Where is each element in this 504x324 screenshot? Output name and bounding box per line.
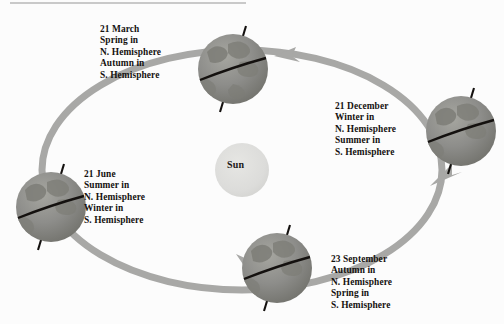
label-december-line-2: N. Hemisphere — [335, 124, 396, 135]
label-march-line-1: Spring in — [100, 35, 161, 46]
label-march-line-2: N. Hemisphere — [100, 47, 161, 58]
label-september-line-2: N. Hemisphere — [331, 277, 392, 288]
label-september-line-0: 23 September — [331, 254, 392, 265]
label-june-line-0: 21 June — [84, 169, 145, 180]
earth-march — [197, 26, 268, 112]
label-december-line-1: Winter in — [335, 112, 396, 123]
label-december-line-4: S. Hemisphere — [335, 147, 396, 158]
label-december: 21 December Winter in N. Hemisphere Summ… — [335, 101, 396, 158]
label-june: 21 June Summer in N. Hemisphere Winter i… — [84, 169, 145, 226]
label-september-line-3: Spring in — [331, 288, 392, 299]
label-december-line-3: Summer in — [335, 135, 396, 146]
label-june-line-4: S. Hemisphere — [84, 215, 145, 226]
label-march-line-3: Autumn in — [100, 58, 161, 69]
label-june-line-2: N. Hemisphere — [84, 192, 145, 203]
diagram-canvas: 21 March Spring in N. Hemisphere Autumn … — [0, 0, 504, 324]
sun-label: Sun — [227, 159, 244, 170]
label-september-line-4: S. Hemisphere — [331, 300, 392, 311]
label-june-line-1: Summer in — [84, 180, 145, 191]
label-september-line-1: Autumn in — [331, 265, 392, 276]
label-september: 23 September Autumn in N. Hemisphere Spr… — [331, 254, 392, 311]
earth-december — [425, 88, 496, 174]
sun-sphere — [215, 143, 269, 197]
earth-september — [241, 225, 312, 311]
label-march-line-4: S. Hemisphere — [100, 70, 161, 81]
label-march: 21 March Spring in N. Hemisphere Autumn … — [100, 24, 161, 81]
seasons-orbit-illustration — [0, 0, 504, 324]
orbit-arrow-to-december — [430, 164, 462, 186]
label-june-line-3: Winter in — [84, 203, 145, 214]
label-december-line-0: 21 December — [335, 101, 396, 112]
label-march-line-0: 21 March — [100, 24, 161, 35]
